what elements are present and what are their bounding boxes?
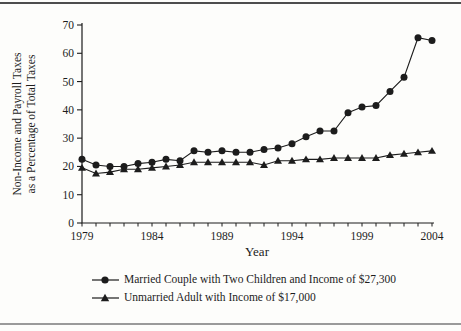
point-married-couple-1979 [79, 156, 86, 163]
point-married-couple-1990 [233, 149, 240, 156]
legend: Married Couple with Two Children and Inc… [92, 272, 396, 305]
series-line-unmarried-adult [82, 151, 432, 174]
point-unmarried-adult-2004 [428, 147, 436, 154]
point-married-couple-1992 [261, 146, 268, 153]
point-married-couple-1998 [345, 109, 352, 116]
x-tick-label: 1999 [351, 230, 374, 242]
point-unmarried-adult-1979 [78, 164, 86, 171]
circle-marker-icon [92, 274, 121, 286]
legend-item-married-couple: Married Couple with Two Children and Inc… [92, 272, 396, 287]
point-married-couple-1997 [331, 128, 338, 135]
point-married-couple-1994 [289, 140, 296, 147]
point-married-couple-1995 [303, 133, 310, 140]
point-married-couple-1989 [219, 147, 226, 154]
point-married-couple-2003 [415, 34, 422, 41]
y-tick-label: 0 [68, 217, 74, 229]
legend-label-unmarried-adult: Unmarried Adult with Income of $17,000 [124, 290, 316, 305]
legend-item-unmarried-adult: Unmarried Adult with Income of $17,000 [92, 290, 396, 305]
bottom-rule [0, 323, 461, 325]
axes: 010203040506070197919841989199419992004 [63, 19, 444, 242]
point-married-couple-2001 [387, 88, 394, 95]
x-tick-label: 1984 [141, 230, 164, 242]
y-axis-title-line2: as a Percentage of Total Taxes [25, 54, 38, 193]
legend-label-married-couple: Married Couple with Two Children and Inc… [124, 272, 396, 287]
series-married-couple [79, 34, 436, 170]
point-married-couple-2000 [373, 102, 380, 109]
point-married-couple-2004 [429, 37, 436, 44]
point-married-couple-1987 [191, 147, 198, 154]
point-married-couple-1985 [163, 156, 170, 163]
y-tick-label: 60 [63, 47, 75, 59]
point-married-couple-1999 [359, 104, 366, 111]
point-married-couple-1993 [275, 145, 282, 152]
y-tick-label: 70 [63, 19, 75, 31]
point-married-couple-1988 [205, 149, 212, 156]
y-tick-label: 30 [63, 132, 75, 144]
point-married-couple-1980 [93, 162, 100, 169]
x-axis-title: Year [245, 244, 270, 259]
point-married-couple-2002 [401, 74, 408, 81]
y-tick-label: 40 [63, 104, 75, 116]
x-tick-label: 1994 [281, 230, 304, 242]
x-tick-label: 1979 [71, 230, 94, 242]
axis-spines [82, 23, 434, 223]
data-series [78, 34, 436, 176]
point-married-couple-1996 [317, 128, 324, 135]
y-tick-label: 10 [63, 189, 75, 201]
x-tick-label: 1989 [211, 230, 234, 242]
tax-percentage-chart: Non-Income and Payroll Taxes as a Percen… [0, 0, 461, 266]
y-tick-label: 50 [63, 76, 75, 88]
x-tick-label: 2004 [421, 230, 444, 242]
y-axis-title-line1: Non-Income and Payroll Taxes [11, 52, 24, 196]
series-line-married-couple [82, 38, 432, 167]
y-tick-label: 20 [63, 160, 75, 172]
figure-page: Non-Income and Payroll Taxes as a Percen… [0, 0, 461, 331]
point-married-couple-1991 [247, 149, 254, 156]
triangle-marker-icon [92, 292, 121, 304]
